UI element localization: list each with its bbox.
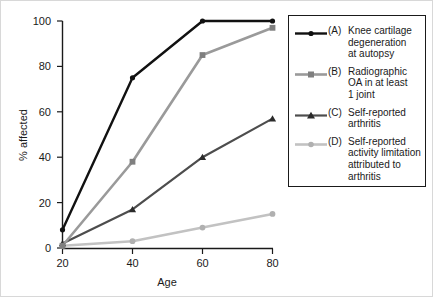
data-point xyxy=(270,25,276,31)
data-point xyxy=(60,243,66,249)
series-a xyxy=(60,18,275,232)
y-axis-tick-labels: 0 20 40 60 80 100 xyxy=(33,15,51,254)
y-axis-ticks xyxy=(57,21,63,248)
legend-item-b[interactable]: (B) Radiographic OA in at least 1 joint xyxy=(294,66,425,101)
y-tick-label: 100 xyxy=(33,15,51,27)
data-point xyxy=(270,211,276,217)
data-point xyxy=(200,52,206,58)
legend-label-c: Self-reported arthritis xyxy=(348,107,425,130)
legend-item-d[interactable]: (D) Self-reported activity limitation at… xyxy=(294,136,425,182)
data-point xyxy=(270,18,275,23)
data-point xyxy=(269,115,276,121)
figure-container: 0 20 40 60 80 100 20 40 60 80 Age % affe… xyxy=(0,0,433,297)
y-axis-title: % affected xyxy=(17,109,29,161)
series-c xyxy=(59,115,276,246)
y-tick-label: 0 xyxy=(45,242,51,254)
data-point xyxy=(130,238,136,244)
x-tick-label: 80 xyxy=(266,257,278,269)
data-point xyxy=(130,75,135,80)
y-tick-label: 60 xyxy=(39,106,51,118)
legend-key-b: (B) xyxy=(328,66,348,101)
x-tick-label: 20 xyxy=(56,257,68,269)
legend-swatch-c-icon xyxy=(294,109,328,122)
legend-label-d: Self-reported activity limitation attrib… xyxy=(348,136,425,182)
legend-item-a[interactable]: (A) Knee cartilage degeneration at autop… xyxy=(294,25,425,60)
legend-swatch-a-icon xyxy=(294,27,328,40)
legend-label-a: Knee cartilage degeneration at autopsy xyxy=(348,25,425,60)
x-tick-label: 60 xyxy=(196,257,208,269)
legend-key-d: (D) xyxy=(328,136,348,182)
data-point xyxy=(200,225,206,231)
y-tick-label: 40 xyxy=(39,151,51,163)
x-axis-ticks xyxy=(63,249,273,255)
chart-legend: (A) Knee cartilage degeneration at autop… xyxy=(288,15,426,187)
legend-label-b: Radiographic OA in at least 1 joint xyxy=(348,66,425,101)
legend-swatch-b-icon xyxy=(294,68,328,81)
x-axis-title: Age xyxy=(157,276,177,288)
x-axis-tick-labels: 20 40 60 80 xyxy=(56,257,278,269)
data-point xyxy=(60,227,65,232)
legend-key-c: (C) xyxy=(328,107,348,130)
data-point xyxy=(200,18,205,23)
y-tick-label: 20 xyxy=(39,197,51,209)
legend-item-c[interactable]: (C) Self-reported arthritis xyxy=(294,107,425,130)
legend-key-a: (A) xyxy=(328,25,348,60)
x-tick-label: 40 xyxy=(126,257,138,269)
y-tick-label: 80 xyxy=(39,60,51,72)
series-b xyxy=(60,25,276,249)
legend-swatch-d-icon xyxy=(294,138,328,151)
data-point xyxy=(130,159,136,165)
